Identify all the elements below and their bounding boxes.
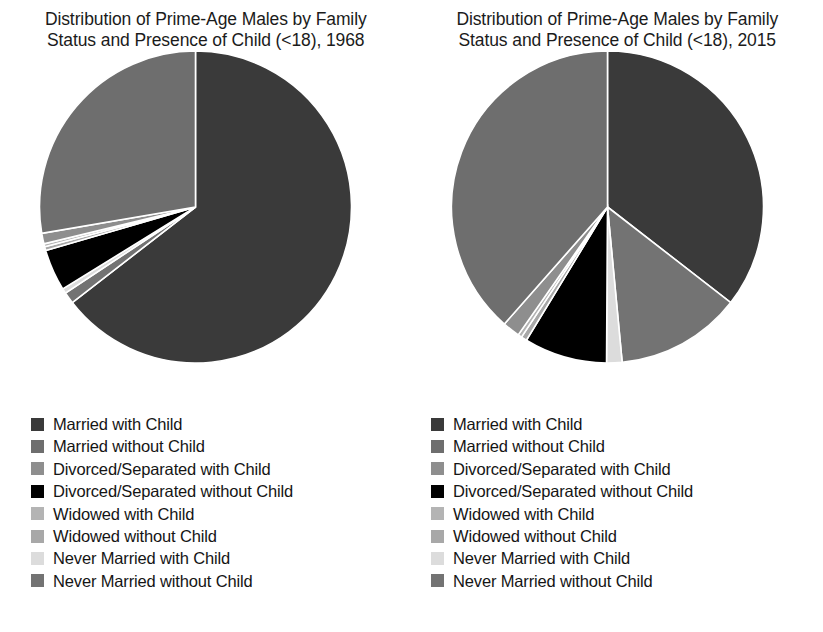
legend-item[interactable]: Divorced/Separated without Child xyxy=(31,480,293,502)
legend-swatch-icon xyxy=(431,485,444,498)
legend-item-label: Divorced/Separated with Child xyxy=(453,458,671,480)
legend-item[interactable]: Married without Child xyxy=(31,435,293,457)
legend-item[interactable]: Widowed without Child xyxy=(31,525,293,547)
legend-swatch-icon xyxy=(431,530,444,543)
legend-item-label: Widowed with Child xyxy=(53,503,194,525)
legend-swatch-icon xyxy=(431,462,444,475)
legend-1968: Married with ChildMarried without ChildD… xyxy=(31,413,293,592)
legend-item[interactable]: Never Married without Child xyxy=(31,570,293,592)
legend-item-label: Never Married with Child xyxy=(453,547,630,569)
pie-wrap-2015: Married with Child: 35.5%Never Married w… xyxy=(412,51,823,381)
legend-item-label: Divorced/Separated without Child xyxy=(453,480,693,502)
legend-swatch-icon xyxy=(31,440,44,453)
legend-swatch-icon xyxy=(31,507,44,520)
legend-item[interactable]: Married with Child xyxy=(431,413,693,435)
pie-wrap-1968: Married with Child: 64.5%Never Married w… xyxy=(0,51,412,381)
chart-title-1968: Distribution of Prime-Age Males by Famil… xyxy=(0,0,412,51)
legend-item-label: Married with Child xyxy=(53,413,182,435)
legend-item[interactable]: Divorced/Separated with Child xyxy=(431,458,693,480)
legend-item[interactable]: Widowed with Child xyxy=(431,503,693,525)
legend-swatch-icon xyxy=(431,552,444,565)
legend-item-label: Widowed without Child xyxy=(53,525,217,547)
legend-swatch-icon xyxy=(31,552,44,565)
chart-title-line2: Status and Presence of Child (<18), 1968 xyxy=(0,30,412,51)
legend-item-label: Divorced/Separated without Child xyxy=(53,480,293,502)
legend-swatch-icon xyxy=(31,530,44,543)
legend-item[interactable]: Never Married with Child xyxy=(31,547,293,569)
legend-item[interactable]: Never Married with Child xyxy=(431,547,693,569)
legend-item-label: Never Married without Child xyxy=(453,570,653,592)
legend-item-label: Married with Child xyxy=(453,413,582,435)
legend-item-label: Widowed without Child xyxy=(453,525,617,547)
legend-item[interactable]: Never Married without Child xyxy=(431,570,693,592)
legend-item[interactable]: Married without Child xyxy=(431,435,693,457)
legend-item-label: Never Married without Child xyxy=(53,570,253,592)
legend-2015: Married with ChildMarried without ChildD… xyxy=(431,413,693,592)
pie-slices: Married with Child: 64.5%Never Married w… xyxy=(40,51,352,363)
legend-item[interactable]: Widowed with Child xyxy=(31,503,293,525)
legend-item-label: Married without Child xyxy=(53,435,205,457)
legend-swatch-icon xyxy=(431,418,444,431)
legend-item[interactable]: Married with Child xyxy=(31,413,293,435)
legend-swatch-icon xyxy=(31,462,44,475)
legend-swatch-icon xyxy=(31,574,44,587)
pie-slice[interactable]: Married without Child: 27.7% xyxy=(40,51,196,233)
legend-item-label: Widowed with Child xyxy=(453,503,594,525)
legend-item[interactable]: Widowed without Child xyxy=(431,525,693,547)
legend-item[interactable]: Divorced/Separated with Child xyxy=(31,458,293,480)
legend-swatch-icon xyxy=(431,574,444,587)
legend-item-label: Divorced/Separated with Child xyxy=(53,458,271,480)
pie-chart-1968: Married with Child: 64.5%Never Married w… xyxy=(0,51,411,381)
chart-title-line1: Distribution of Prime-Age Males by Famil… xyxy=(412,9,823,30)
legend-item-label: Married without Child xyxy=(453,435,605,457)
legend-swatch-icon xyxy=(431,440,444,453)
legend-item[interactable]: Divorced/Separated without Child xyxy=(431,480,693,502)
legend-swatch-icon xyxy=(431,507,444,520)
pie-chart-2015: Married with Child: 35.5%Never Married w… xyxy=(412,51,823,381)
legend-swatch-icon xyxy=(31,485,44,498)
chart-title-line2: Status and Presence of Child (<18), 2015 xyxy=(412,30,823,51)
chart-title-line1: Distribution of Prime-Age Males by Famil… xyxy=(0,9,412,30)
legend-item-label: Never Married with Child xyxy=(53,547,230,569)
chart-title-2015: Distribution of Prime-Age Males by Famil… xyxy=(412,0,823,51)
pie-slices: Married with Child: 35.5%Never Married w… xyxy=(451,51,763,363)
legend-swatch-icon xyxy=(31,418,44,431)
